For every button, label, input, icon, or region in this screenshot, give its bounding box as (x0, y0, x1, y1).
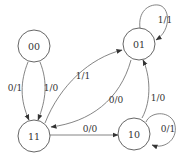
state-10: 10 (118, 118, 150, 150)
edge-label: 1/0 (151, 93, 166, 103)
state-11: 11 (18, 120, 50, 152)
state-diagram: 00 01 11 10 0/1 1/0 1/1 0/0 1/1 0/0 1/0 … (0, 0, 183, 155)
edge-label: 0/1 (161, 124, 175, 134)
edge-10-01 (142, 60, 149, 118)
edge-label: 0/1 (8, 83, 22, 93)
state-label: 11 (28, 131, 40, 142)
state-00: 00 (18, 30, 50, 62)
edge-label: 0/0 (109, 95, 124, 105)
state-label: 01 (133, 39, 145, 50)
edge-label: 0/0 (83, 124, 98, 134)
edge-label: 1/1 (158, 15, 172, 25)
state-label: 10 (128, 129, 140, 140)
edge-01-11 (51, 60, 131, 127)
state-01: 01 (123, 28, 155, 60)
edge-label: 1/1 (76, 71, 90, 81)
edge-00-11-a (22, 62, 29, 120)
state-label: 00 (28, 41, 40, 52)
edge-label: 1/0 (44, 83, 59, 93)
